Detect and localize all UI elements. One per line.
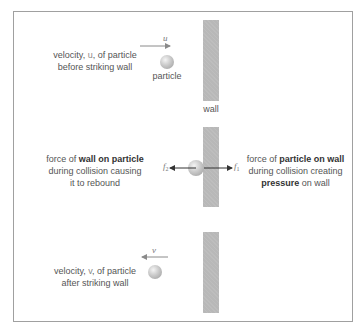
arrows-layer [0,0,362,333]
